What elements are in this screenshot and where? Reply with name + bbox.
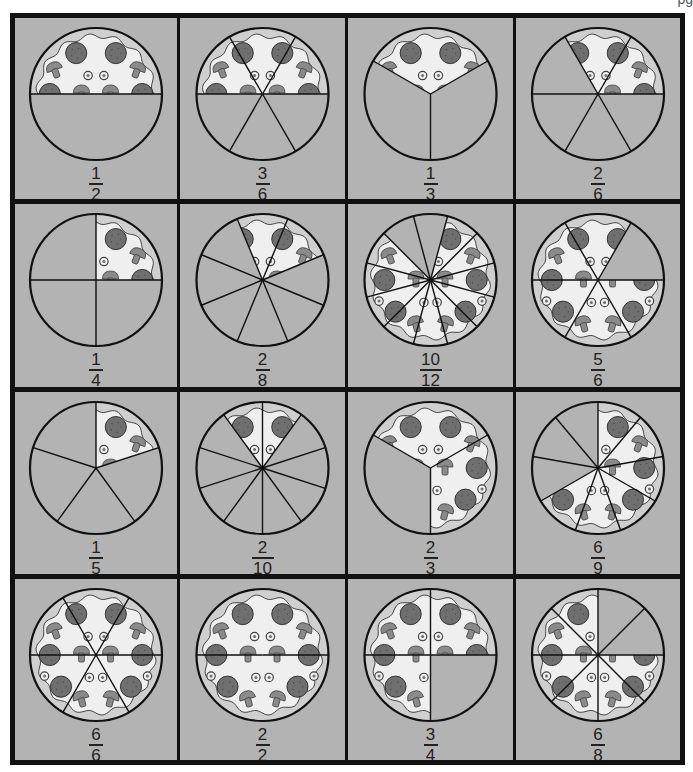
fraction-label: 210 [180,539,345,574]
fraction-label: 23 [348,539,513,574]
fraction-numerator: 3 [348,726,513,743]
fraction-label: 13 [348,165,513,199]
fraction-denominator: 6 [15,747,177,760]
page-corner-label: pg [677,0,693,7]
fraction-label: 1012 [348,351,513,387]
fraction-denominator: 8 [516,747,680,760]
pizza-cell: 36 [180,18,345,199]
fraction-denominator: 4 [15,372,177,387]
fraction-label: 15 [15,539,177,574]
pizza-cell: 13 [348,18,513,199]
fraction-label: 56 [516,351,680,387]
fraction-numerator: 6 [15,726,177,743]
fraction-denominator: 6 [516,186,680,199]
pizza-cell: 12 [15,18,177,199]
fraction-denominator: 5 [15,560,177,574]
fraction-denominator: 2 [180,747,345,760]
fraction-denominator: 2 [15,186,177,199]
fraction-denominator: 8 [180,372,345,387]
fraction-numerator: 1 [15,351,177,368]
pizza-cell: 14 [15,204,177,387]
pizza-cell: 26 [516,18,680,199]
fraction-label: 26 [516,165,680,199]
fraction-label: 22 [180,726,345,760]
pizza-cell: 22 [180,579,345,760]
fraction-label: 12 [15,165,177,199]
fraction-numerator: 2 [180,726,345,743]
fraction-denominator: 10 [180,560,345,574]
pizza-cell: 23 [348,392,513,574]
pizza-cell: 66 [15,579,177,760]
pizza-cell: 28 [180,204,345,387]
fraction-denominator: 4 [348,747,513,760]
fraction-numerator: 2 [516,165,680,182]
pizza-cell: 56 [516,204,680,387]
fraction-numerator: 2 [348,539,513,556]
pizza-cell: 69 [516,392,680,574]
fraction-denominator: 6 [516,372,680,387]
fraction-numerator: 10 [348,351,513,368]
fraction-label: 36 [180,165,345,199]
fraction-numerator: 2 [180,351,345,368]
fraction-denominator: 3 [348,560,513,574]
fraction-label: 14 [15,351,177,387]
fraction-denominator: 12 [348,372,513,387]
fraction-denominator: 6 [180,186,345,199]
fraction-denominator: 9 [516,560,680,574]
pizza-cell: 15 [15,392,177,574]
fraction-denominator: 3 [348,186,513,199]
fraction-numerator: 6 [516,539,680,556]
fraction-numerator: 2 [180,539,345,556]
fraction-label: 34 [348,726,513,760]
fraction-numerator: 3 [180,165,345,182]
pizza-cell: 210 [180,392,345,574]
fraction-numerator: 6 [516,726,680,743]
fraction-numerator: 1 [15,539,177,556]
fraction-label: 69 [516,539,680,574]
fraction-label: 68 [516,726,680,760]
pizza-cell: 68 [516,579,680,760]
fraction-label: 28 [180,351,345,387]
fraction-numerator: 1 [348,165,513,182]
pizza-fraction-grid: 12361326142810125615210236966223468 [10,13,685,765]
fraction-label: 66 [15,726,177,760]
pizza-cell: 34 [348,579,513,760]
pizza-cell: 1012 [348,204,513,387]
fraction-numerator: 1 [15,165,177,182]
fraction-numerator: 5 [516,351,680,368]
